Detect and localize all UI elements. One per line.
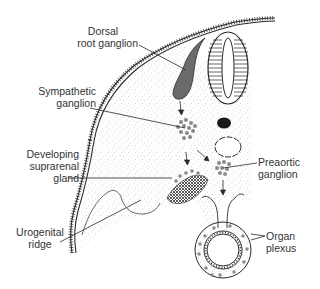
label-organ-plexus: Organ plexus [266, 230, 316, 254]
label-line: root ganglion [68, 37, 138, 49]
label-line: ridge [10, 238, 70, 250]
label-line: Organ [266, 230, 316, 242]
label-urogenital-ridge: Urogenital ridge [10, 226, 70, 250]
label-line: Urogenital [10, 226, 70, 238]
label-line: Sympathetic [30, 85, 96, 97]
label-line: plexus [266, 242, 316, 254]
label-line: ganglion [258, 168, 318, 180]
label-line: suprarenal [10, 160, 79, 172]
label-line: Developing [10, 148, 79, 160]
notochord-icon [217, 118, 231, 129]
label-line: Dorsal [68, 25, 138, 37]
label-line: Preaortic [258, 156, 318, 168]
aorta-icon [215, 137, 241, 157]
label-line: gland [10, 172, 79, 184]
label-line: ganglion [30, 97, 96, 109]
label-preaortic-ganglion: Preaortic ganglion [258, 156, 318, 180]
label-sympathetic-ganglion: Sympathetic ganglion [30, 85, 96, 109]
label-developing-suprarenal-gland: Developing suprarenal gland [10, 148, 79, 184]
neural-tube-icon [208, 32, 248, 104]
diagram-canvas: Dorsal root ganglion Sympathetic ganglio… [0, 0, 320, 289]
label-dorsal-root-ganglion: Dorsal root ganglion [68, 25, 138, 49]
gut-tube-organ-plexus-icon [195, 222, 251, 278]
